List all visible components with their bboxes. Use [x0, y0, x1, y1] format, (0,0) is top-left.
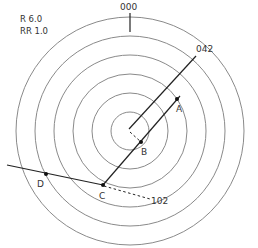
- range-label: R 6.0: [20, 14, 42, 24]
- range-ring-2: [92, 93, 168, 169]
- track-line-dc: [7, 165, 103, 185]
- range-ring-3: [73, 74, 187, 188]
- bearing-000-label: 000: [120, 2, 137, 12]
- range-ring-1: [111, 112, 149, 150]
- cpa-dashed-line: [130, 132, 141, 142]
- point-a-label: A: [176, 104, 183, 114]
- point-b-marker: [139, 140, 143, 144]
- point-d-label: D: [37, 179, 44, 189]
- bearing-102-label: 102: [151, 196, 168, 206]
- point-a-marker: [175, 97, 179, 101]
- radar-plot: R 6.0 RR 1.0 000 042 102 A B C D: [0, 0, 258, 248]
- point-d-marker: [44, 172, 48, 176]
- range-ring-5: [35, 36, 225, 226]
- range-ring-4: [54, 55, 206, 207]
- point-c-label: C: [99, 191, 105, 201]
- point-c-marker: [101, 183, 105, 187]
- bearing-042-label: 042: [196, 44, 213, 54]
- point-b-label: B: [141, 147, 147, 157]
- ring-range-label: RR 1.0: [20, 26, 48, 36]
